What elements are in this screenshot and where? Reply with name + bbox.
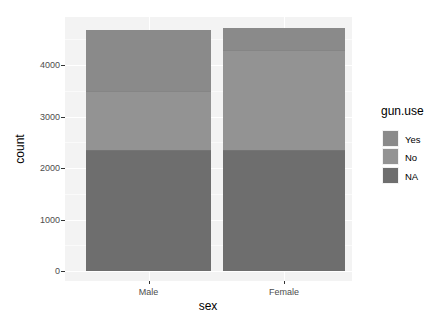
bar-segment-yes bbox=[223, 28, 345, 50]
legend-label-na: NA bbox=[405, 171, 418, 182]
y-tick-label: 0 bbox=[55, 266, 60, 276]
x-tick-mark bbox=[284, 281, 285, 284]
y-tick-mark bbox=[61, 117, 65, 118]
legend-label-no: No bbox=[405, 152, 417, 163]
bar-segment-no bbox=[86, 91, 211, 150]
y-tick-label: 3000 bbox=[40, 112, 60, 122]
bar-segment-na bbox=[223, 150, 345, 271]
segment-divider bbox=[223, 150, 345, 151]
bar-segment-no bbox=[223, 50, 345, 150]
segment-divider bbox=[223, 50, 345, 51]
y-tick-label: 1000 bbox=[40, 215, 60, 225]
segment-divider bbox=[86, 91, 211, 92]
y-tick-label: 2000 bbox=[40, 163, 60, 173]
bar-segment-yes bbox=[86, 30, 211, 91]
y-tick-label: 4000 bbox=[40, 60, 60, 70]
x-axis-title: sex bbox=[199, 299, 218, 313]
legend-title: gun.use bbox=[381, 104, 424, 118]
legend-label-yes: Yes bbox=[405, 134, 421, 145]
x-tick-label: Female bbox=[269, 287, 299, 297]
y-tick-mark bbox=[61, 220, 65, 221]
segment-divider bbox=[86, 150, 211, 151]
x-tick-mark bbox=[149, 281, 150, 284]
y-tick-mark bbox=[61, 271, 65, 272]
y-tick-mark bbox=[61, 168, 65, 169]
legend-key-yes bbox=[382, 130, 399, 147]
bar-male bbox=[86, 17, 211, 281]
plot-panel bbox=[65, 17, 352, 281]
bar-female bbox=[223, 17, 345, 281]
legend-key-na bbox=[382, 167, 399, 184]
y-axis-title: count bbox=[13, 134, 27, 163]
legend-key-no bbox=[382, 148, 399, 165]
x-tick-label: Male bbox=[139, 287, 159, 297]
bar-segment-na bbox=[86, 150, 211, 271]
y-tick-mark bbox=[61, 65, 65, 66]
